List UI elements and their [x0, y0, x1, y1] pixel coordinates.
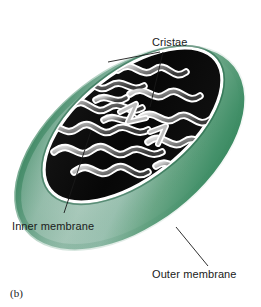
leader-line-outer-membrane — [176, 227, 208, 266]
label-outer-membrane: Outer membrane — [152, 268, 237, 281]
label-cristae: Cristae — [152, 36, 188, 49]
figure-caption: (b) — [10, 287, 23, 299]
mitochondrion-illustration — [0, 0, 261, 307]
label-inner-membrane: Inner membrane — [12, 220, 94, 233]
mitochondrion-figure: Cristae Inner membrane Outer membrane (b… — [0, 0, 261, 307]
